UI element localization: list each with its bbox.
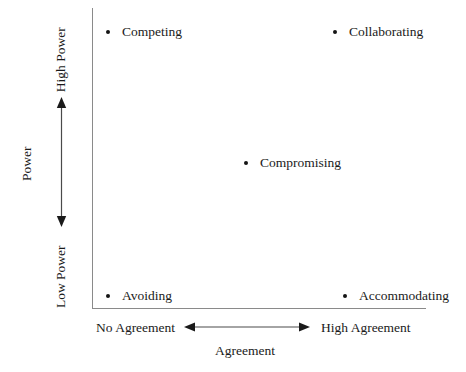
marker-dot-icon xyxy=(333,30,337,34)
marker-dot-icon xyxy=(106,294,110,298)
data-point-competing: Competing xyxy=(106,25,182,39)
x-axis-low-label: No Agreement xyxy=(96,321,175,335)
agreement-double-arrow-icon xyxy=(184,319,310,335)
data-point-avoiding: Avoiding xyxy=(106,289,172,303)
data-point-collaborating: Collaborating xyxy=(333,25,423,39)
y-axis-high-label: High Power xyxy=(54,20,68,100)
data-point-label: Collaborating xyxy=(349,25,423,39)
data-point-label: Avoiding xyxy=(122,289,172,303)
data-point-compromising: Compromising xyxy=(244,156,341,170)
y-axis-title: Power xyxy=(20,134,34,194)
x-axis-title: Agreement xyxy=(215,344,275,358)
x-axis-line xyxy=(92,308,426,309)
power-double-arrow-icon xyxy=(53,97,70,227)
x-axis-high-label: High Agreement xyxy=(321,321,411,335)
y-axis-line xyxy=(92,8,93,309)
data-point-label: Accommodating xyxy=(359,289,449,303)
y-axis-low-label: Low Power xyxy=(54,237,68,317)
marker-dot-icon xyxy=(244,161,248,165)
marker-dot-icon xyxy=(106,30,110,34)
marker-dot-icon xyxy=(343,294,347,298)
data-point-label: Compromising xyxy=(260,156,341,170)
data-point-accommodating: Accommodating xyxy=(343,289,449,303)
data-point-label: Competing xyxy=(122,25,182,39)
conflict-styles-diagram: High Power Low Power Power Competing Col… xyxy=(0,0,466,372)
